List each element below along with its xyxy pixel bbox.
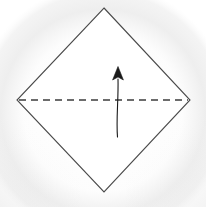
origami-figure-container: Origami valley fold diagram A square she… [0,0,206,207]
origami-diagram-svg: Origami valley fold diagram A square she… [0,0,206,207]
